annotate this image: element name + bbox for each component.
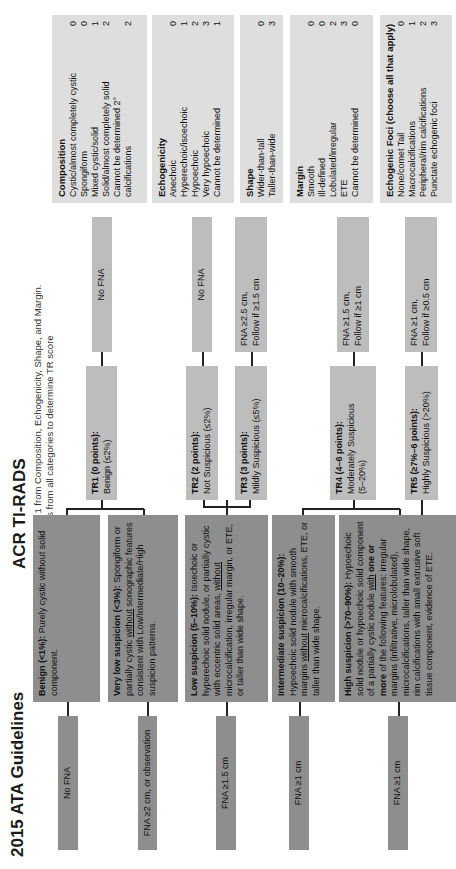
tr5-box: TR5 (≥7%–6 points): Highly Suspicious (>… [405, 366, 438, 500]
item-points: 3 [201, 21, 212, 32]
connector [299, 702, 301, 716]
item-points: 3 [267, 21, 278, 32]
ata-category-emphasis: with [366, 574, 376, 590]
tr2-box: TR2 (2 points): Not Suspicious (≤2%) [186, 366, 218, 500]
item-label: Punctate echogenic foci [429, 101, 440, 197]
item-label: Peripheral/rim calcifications [418, 87, 429, 197]
ata-category-intermediate: Intermediate suspicion (10–20%): Hypoech… [272, 515, 335, 702]
tr-title: TR4 (4–6 points): [334, 372, 346, 494]
category-item: Hyperechoic/isoechoic1 [179, 21, 190, 197]
category-item: calcifications2 [123, 21, 134, 197]
tr-title: TR3 (3 points): [239, 372, 251, 494]
item-label: Lobulated/irregular [328, 122, 339, 197]
item-label: None/comet Tail [396, 133, 407, 197]
tr4-recommendation: FNA ≥1.5 cm, Follow if ≥1 cm [337, 217, 369, 352]
item-label: Cannot be determined [212, 108, 223, 197]
rec-label: Follow if ≥1.5 cm [251, 223, 263, 346]
item-points: 3 [429, 21, 440, 32]
item-points: 0 [79, 21, 90, 32]
tr1-box: TR1 (0 points): Benign (≤2%) [86, 366, 117, 500]
category-item: Cannot be determined1 [212, 21, 223, 197]
item-label: Cannot be determined [350, 108, 361, 197]
item-label: Wider-than-tall [256, 138, 267, 197]
ata-rec-very-low: FNA ≥2 cm, or observation [138, 716, 157, 850]
ata-category-benign: Benign (<1%): Purely cystic without soli… [33, 515, 100, 702]
category-item: Spongiform0 [79, 21, 90, 197]
tirads-title: ACR TI-RADS [10, 459, 30, 570]
ata-category-desc: of the following features: irregular mar… [378, 528, 434, 696]
item-points: 3 [339, 21, 350, 32]
category-item: Mixed cystic/solid1 [90, 21, 101, 197]
tr3-box: TR3 (3 points): Mildly Suspicious (≤5%) [235, 366, 267, 500]
category-item: Taller-than-wide3 [267, 21, 278, 197]
category-item: Ill-defined0 [317, 21, 328, 197]
category-item: Cannot be determined 2° [112, 21, 123, 197]
category-item: Cannot be determined0 [350, 21, 361, 197]
item-points: 1 [179, 21, 190, 32]
category-item: Very hypoechoic3 [201, 21, 212, 197]
item-label: ETE [339, 179, 350, 197]
category-item: Wider-than-tall0 [256, 21, 267, 197]
category-item: Punctate echogenic foci3 [429, 21, 440, 197]
ata-rec-high: FNA ≥1 cm [388, 716, 408, 850]
item-points: 2 [101, 21, 112, 32]
category-item: Hypoechoic2 [190, 21, 201, 197]
tr-title: TR5 (≥7%–6 points): [409, 372, 421, 494]
category-item: Smooth0 [306, 21, 317, 197]
category-echogenicity: Echogenicity Anechoic0 Hyperechoic/isoec… [152, 15, 234, 203]
ata-category-low: Low suspicion (5–10%): Isoechoic or hype… [185, 515, 268, 702]
ata-rec-label: FNA ≥2 cm, or observation [142, 730, 154, 836]
category-title: Shape [244, 21, 256, 197]
category-title: Echogenicity [156, 21, 168, 197]
item-label: Ill-defined [317, 158, 328, 197]
ata-category-high: High suspicion (>70–90%): Hypoechoic sol… [339, 515, 456, 702]
category-item: Solid/almost completely solid2 [101, 21, 112, 197]
ata-category-emphasis: without [212, 562, 222, 591]
ata-category-name: Very low suspicion (<3%): [112, 585, 122, 696]
tr2-recommendation: No FNA [192, 217, 212, 352]
rec-label: FNA ≥1.5 cm, [341, 223, 353, 346]
item-points: 2 [328, 21, 339, 32]
item-label: Taller-than-wide [267, 133, 278, 197]
rec-label: FNA ≥1 cm, [409, 223, 421, 346]
connector [249, 500, 251, 508]
item-points: 1 [407, 21, 418, 32]
tr-desc: Mildly Suspicious (≤5%) [251, 372, 263, 494]
ata-category-name: Benign (<1%): [37, 636, 47, 696]
category-composition: Composition Cystic/almost completely cys… [52, 15, 147, 203]
connector [101, 500, 103, 510]
rec-label: Follow if ≥1 cm [353, 223, 365, 346]
tr1-recommendation: No FNA [92, 217, 112, 352]
category-shape: Shape Wider-than-tall0 Taller-than-wide3 [240, 15, 283, 203]
category-item: Peripheral/rim calcifications2 [418, 21, 429, 197]
ata-category-emphasis: without [124, 609, 134, 638]
category-title: Echogenic Foci (choose all that apply) [384, 21, 396, 197]
connector [353, 352, 355, 366]
tr-desc: Benign (≤2%) [102, 372, 114, 494]
item-label: calcifications [123, 146, 134, 197]
item-label: Very hypoechoic [201, 131, 212, 197]
item-label: Anechoic [168, 160, 179, 197]
category-item: None/comet Tail0 [396, 21, 407, 197]
connector [302, 509, 400, 511]
connector [67, 702, 69, 716]
ata-category-desc: microcalcification, irregular margin, or… [224, 524, 246, 696]
ata-rec-label: No FNA [62, 767, 74, 799]
connector [203, 500, 205, 508]
rec-label: No FNA [196, 269, 208, 301]
item-points: 1 [212, 21, 223, 32]
connector [353, 500, 355, 510]
connector [147, 702, 149, 716]
item-points: 2 [123, 21, 134, 32]
tr-title: TR2 (2 points): [190, 372, 202, 494]
item-points: 1 [90, 21, 101, 32]
category-item: Anechoic0 [168, 21, 179, 197]
connector [421, 352, 423, 366]
item-points: 0 [350, 21, 361, 32]
tr3-recommendation: FNA ≥2.5 cm, Follow if ≥1.5 cm [235, 217, 267, 352]
rec-label: Follow if ≥0.5 cm [421, 223, 433, 346]
connector [66, 509, 144, 511]
connector [202, 352, 204, 366]
item-label: Smooth [306, 166, 317, 197]
item-points: 2 [190, 21, 201, 32]
